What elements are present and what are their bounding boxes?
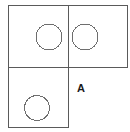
diagram-canvas: A — [0, 0, 130, 132]
labels-group: A — [77, 82, 85, 94]
diagram-background — [0, 0, 130, 132]
diagram-svg: A — [0, 0, 130, 132]
label-a: A — [77, 82, 85, 94]
